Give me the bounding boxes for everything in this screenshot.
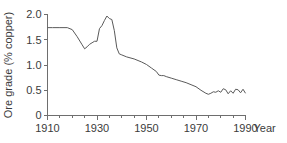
x-axis: 19101930195019701990 (35, 116, 257, 134)
x-tick-label: 1970 (184, 122, 208, 134)
y-tick-label: 2.0 (26, 8, 41, 20)
y-tick-label: 0 (35, 109, 41, 121)
plot-area (48, 16, 246, 94)
y-axis-title: Ore grade (% copper) (2, 12, 14, 118)
x-tick-label: 1910 (35, 122, 59, 134)
x-tick-label: 1950 (134, 122, 158, 134)
y-axis: 00.51.01.52.0 (26, 8, 47, 121)
y-tick-label: 1.0 (26, 59, 41, 71)
chart-canvas: 00.51.01.52.0 19101930195019701990 YearO… (0, 0, 287, 143)
x-tick-label: 1930 (85, 122, 109, 134)
y-tick-label: 0.5 (26, 84, 41, 96)
ore-grade-chart: 00.51.01.52.0 19101930195019701990 YearO… (0, 0, 287, 143)
y-tick-label: 1.5 (26, 34, 41, 46)
x-axis-title: Year (254, 122, 277, 134)
ore-grade-series-line (48, 16, 246, 94)
